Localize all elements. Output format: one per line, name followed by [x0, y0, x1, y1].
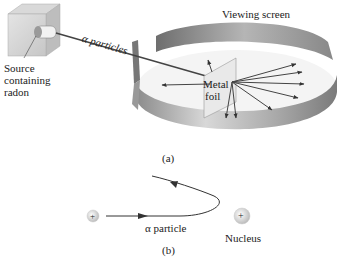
source-label-line-3: radon — [4, 86, 29, 98]
metal-foil-label-line-2: foil — [205, 90, 220, 102]
radon-source-box — [8, 4, 60, 58]
viewing-screen-label: Viewing screen — [222, 8, 290, 20]
rutherford-diagram — [0, 0, 343, 260]
source-label-line-2: containing — [4, 74, 50, 86]
deflection-path — [87, 176, 250, 224]
alpha-particle-label: α particle — [145, 222, 187, 234]
nucleus-charge-plus: + — [238, 210, 244, 222]
alpha-charge-plus: + — [90, 210, 95, 222]
nucleus-label: Nucleus — [225, 232, 261, 244]
caption-b: (b) — [162, 244, 175, 256]
metal-foil-label-line-1: Metal — [203, 78, 229, 90]
source-label-line-1: Source — [4, 62, 35, 74]
caption-a: (a) — [162, 152, 174, 164]
